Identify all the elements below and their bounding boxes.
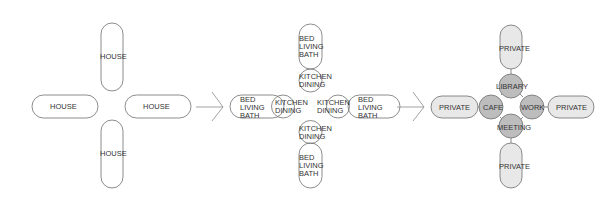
bed-living-bath-right-label: BED LIVING BATH — [358, 95, 383, 120]
house-right-label: HOUSE — [143, 102, 170, 111]
diagram-canvas: HOUSE HOUSE HOUSE HOUSE BED LIVING BATH … — [0, 0, 601, 202]
arrow-icon — [397, 92, 424, 121]
bed-living-bath-left-label: BED LIVING BATH — [240, 95, 265, 120]
bed-living-bath-top-label: BED LIVING BATH — [299, 34, 324, 59]
kitchen-dining-left-label: KITCHEN DINING — [275, 98, 308, 115]
house-bottom-label: HOUSE — [100, 149, 127, 158]
bed-living-bath-bottom-label: BED LIVING BATH — [299, 153, 324, 178]
private-bottom-label: PRIVATE — [499, 162, 530, 171]
kitchen-dining-top-label: KITCHEN DINING — [299, 72, 332, 89]
private-left-label: PRIVATE — [439, 103, 470, 112]
svg-text:DINING: DINING — [275, 106, 301, 115]
private-right-label: PRIVATE — [556, 103, 587, 112]
house-top-label: HOUSE — [100, 52, 127, 61]
private-top-label: PRIVATE — [499, 44, 530, 53]
kitchen-dining-bottom-label: KITCHEN DINING — [299, 124, 332, 141]
svg-text:DINING: DINING — [299, 80, 325, 89]
library-label: LIBRARY — [496, 82, 528, 91]
svg-text:BATH: BATH — [358, 111, 377, 120]
work-label: WORK — [521, 103, 544, 112]
house-left-label: HOUSE — [50, 102, 77, 111]
svg-text:DINING: DINING — [317, 106, 343, 115]
svg-text:BATH: BATH — [299, 50, 318, 59]
cafe-label: CAFE — [483, 103, 503, 112]
meeting-label: MEETING — [497, 123, 531, 132]
svg-text:BATH: BATH — [299, 169, 318, 178]
svg-text:BATH: BATH — [240, 111, 259, 120]
svg-text:DINING: DINING — [299, 132, 325, 141]
arrow-icon — [196, 92, 223, 121]
kitchen-dining-right-label: KITCHEN DINING — [317, 98, 350, 115]
